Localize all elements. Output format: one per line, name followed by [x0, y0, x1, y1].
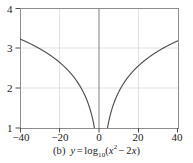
- caption-label: (b): [53, 145, 66, 156]
- caption-log: log: [84, 145, 98, 156]
- x-tick-label-40: 40: [172, 131, 184, 143]
- figure-panel: 1 2 3 4 −40 −20 0 20 40: [0, 0, 193, 163]
- y-tick-label-2: 2: [7, 82, 13, 94]
- y-tick-label-3: 3: [7, 42, 13, 54]
- x-tick-label-20: 20: [133, 131, 145, 143]
- x-tick-label-minus40: −40: [12, 131, 30, 143]
- caption-var-y: y: [71, 145, 76, 156]
- x-tick-label-minus20: −20: [51, 131, 69, 143]
- y-tick-marks: [16, 9, 21, 129]
- caption-equals: =: [77, 145, 83, 156]
- caption-minus: −: [119, 145, 125, 156]
- y-tick-label-4: 4: [7, 3, 13, 15]
- x-tick-label-0: 0: [96, 131, 102, 143]
- plot-svg: 1 2 3 4 −40 −20 0 20 40: [0, 0, 193, 163]
- figure-caption: (b)y=log10(x2−2x): [0, 143, 193, 159]
- caption-close-paren: ): [136, 145, 140, 156]
- caption-exponent: 2: [114, 143, 118, 151]
